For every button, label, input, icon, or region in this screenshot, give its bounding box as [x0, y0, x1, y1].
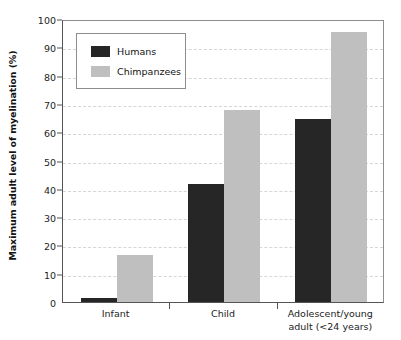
- bar-humans-child: [188, 184, 224, 302]
- bar-chimpanzees-adolescent: [331, 32, 367, 302]
- chart-legend: Humans Chimpanzees: [76, 33, 186, 89]
- x-tick-label: Adolescent/young adult (<24 years): [288, 308, 373, 333]
- y-tick-label: 90: [44, 43, 56, 54]
- legend-label-humans: Humans: [117, 46, 156, 57]
- y-axis-title: Maximum adult level of myelination (%): [0, 0, 24, 310]
- y-tick-label: 20: [44, 241, 56, 252]
- y-tick-label: 80: [44, 71, 56, 82]
- legend-label-chimpanzees: Chimpanzees: [117, 66, 181, 77]
- bar-chimpanzees-infant: [117, 255, 153, 302]
- bar-humans-infant: [81, 298, 117, 302]
- y-axis-ticks: 0102030405060708090100: [28, 20, 62, 303]
- legend-item-humans: Humans: [91, 43, 185, 60]
- legend-swatch-humans: [91, 46, 110, 57]
- bar-chimpanzees-child: [224, 110, 260, 302]
- x-tick-mark: [169, 303, 170, 309]
- y-tick-label: 40: [44, 184, 56, 195]
- y-tick-label: 0: [50, 298, 56, 309]
- y-tick-label: 50: [44, 156, 56, 167]
- y-tick-label: 10: [44, 269, 56, 280]
- y-tick-label: 60: [44, 128, 56, 139]
- y-tick-label: 30: [44, 213, 56, 224]
- x-tick-mark: [277, 303, 278, 309]
- legend-swatch-chimpanzees: [91, 66, 110, 77]
- bar-humans-adolescent: [295, 119, 331, 302]
- myelination-bar-chart: Maximum adult level of myelination (%) 0…: [0, 0, 401, 340]
- x-tick-label: Child: [211, 308, 235, 321]
- x-tick-label: Infant: [102, 308, 130, 321]
- legend-item-chimpanzees: Chimpanzees: [91, 63, 185, 80]
- y-tick-label: 70: [44, 99, 56, 110]
- y-axis-title-text: Maximum adult level of myelination (%): [7, 50, 18, 260]
- y-tick-label: 100: [38, 15, 56, 26]
